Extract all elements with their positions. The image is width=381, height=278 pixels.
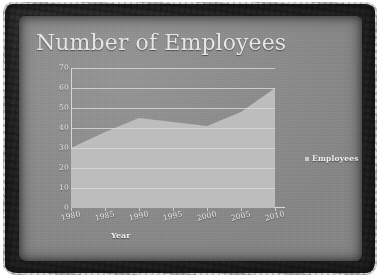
gridline-y-10 (71, 188, 275, 189)
gridline-y-30 (71, 148, 275, 149)
square-marker-icon (305, 157, 309, 161)
x-axis-tick-label: 2010 (264, 209, 285, 223)
slide-surface: Number of Employees 01020304050607019801… (19, 16, 362, 261)
x-axis-tick-label: 1985 (94, 209, 115, 223)
gridline-y-70 (71, 68, 275, 69)
y-axis-tick-label: 30 (45, 143, 69, 152)
x-axis-tick-label: 2005 (230, 209, 251, 223)
plot-area: 0102030405060701980198519901995200020052… (71, 68, 275, 208)
legend-item-label: Employees (312, 154, 359, 163)
gridline-y-40 (71, 128, 275, 129)
gridline-y-50 (71, 108, 275, 109)
slide-frame: Number of Employees 01020304050607019801… (0, 0, 381, 278)
x-axis-tick-label: 1990 (128, 209, 149, 223)
x-axis-tick-label: 1995 (162, 209, 183, 223)
chart-legend: Employees (305, 154, 359, 163)
y-axis-tick-label: 0 (45, 203, 69, 212)
y-axis-tick-label: 40 (45, 123, 69, 132)
y-axis-tick-label: 60 (45, 83, 69, 92)
area-series-employees (71, 68, 275, 208)
x-axis-tick-label: 2000 (196, 209, 217, 223)
area-chart: 0102030405060701980198519901995200020052… (33, 64, 343, 249)
gridline-y-60 (71, 88, 275, 89)
y-axis-tick-label: 50 (45, 103, 69, 112)
page-title: Number of Employees (36, 30, 286, 55)
y-axis-tick-label: 20 (45, 163, 69, 172)
gridline-y-20 (71, 168, 275, 169)
y-axis-tick-label: 70 (45, 63, 69, 72)
y-axis-tick-label: 10 (45, 183, 69, 192)
x-axis-title: Year (111, 230, 131, 240)
